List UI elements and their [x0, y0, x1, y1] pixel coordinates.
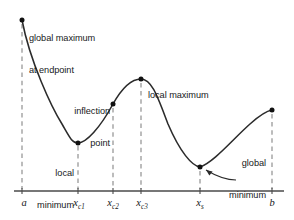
annotation-local-maximum-line1: local maximum [148, 90, 209, 101]
point-inflection [111, 102, 116, 107]
tick-label-base: a [21, 197, 26, 208]
annotation-global-maximum-line1: global maximum [29, 33, 95, 44]
annotation-local-minimum: local minimum [14, 147, 74, 220]
tick-label-subscript: c1 [78, 203, 85, 211]
calculus-extrema-figure: global maximum at endpoint inflection po… [0, 0, 294, 220]
annotation-local-minimum-line1: local [14, 168, 74, 179]
tick-label-base: b [269, 197, 274, 208]
axis-tick-label-xc3: xc3 [122, 197, 162, 208]
point-global-maximum [20, 18, 25, 23]
annotation-global-minimum-line1: global [208, 158, 266, 169]
annotation-inflection-point-line1: inflection [55, 106, 110, 117]
axis-tick-label-b: b [252, 197, 292, 208]
tick-label-subscript: c3 [141, 203, 148, 211]
point-local-maximum [139, 77, 144, 82]
point-global-minimum [198, 165, 203, 170]
annotation-global-maximum-line2: at endpoint [29, 65, 95, 76]
tick-label-subscript: c2 [112, 203, 119, 211]
axis-tick-label-a: a [4, 197, 44, 208]
tick-label-subscript: s [201, 203, 204, 211]
point-right-endpoint [270, 108, 275, 113]
annotation-local-maximum: local maximum [148, 69, 209, 122]
axis-tick-label-xs: xs [180, 197, 220, 208]
